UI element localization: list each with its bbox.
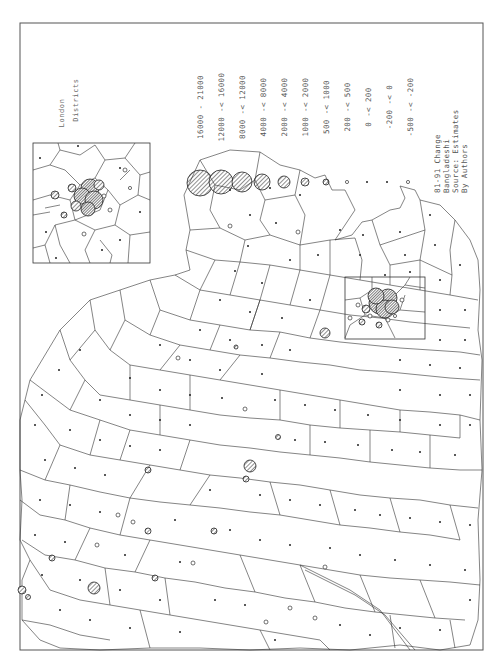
legend-label: -500 -< -200 bbox=[406, 77, 415, 136]
district-map bbox=[18, 150, 482, 650]
legend-title: 81-91 Change bbox=[433, 134, 442, 193]
legend-label: 8000 -< 12000 bbox=[238, 75, 247, 139]
legend-label: 1000 -< 2000 bbox=[301, 77, 310, 136]
legend-label: 12000 -< 16000 bbox=[217, 73, 226, 142]
legend-label: 4000 -< 8000 bbox=[259, 77, 268, 136]
district-symbols bbox=[18, 224, 327, 624]
district-boundaries bbox=[20, 152, 482, 650]
legend-label: 16000 - 21000 bbox=[196, 75, 205, 139]
inset-title-line1: London bbox=[58, 99, 66, 128]
legend-symbol-4000 bbox=[254, 174, 270, 190]
legend: 16000 - 21000 12000 -< 16000 8000 -< 120… bbox=[187, 73, 469, 196]
legend-label: 2000 -< 4000 bbox=[280, 77, 289, 136]
legend-symbol-neg500 bbox=[406, 180, 409, 183]
legend-symbol-neg200 bbox=[386, 181, 388, 183]
legend-labels: 16000 - 21000 12000 -< 16000 8000 -< 120… bbox=[196, 73, 415, 142]
legend-label: 200 -< 500 bbox=[343, 82, 352, 131]
legend-credit: By Authors bbox=[460, 144, 469, 193]
legend-symbol-1000 bbox=[301, 178, 309, 186]
legend-subtitle: Bangladeshi bbox=[442, 139, 451, 193]
legend-symbols bbox=[187, 170, 410, 196]
district-centroids bbox=[34, 187, 471, 641]
legend-symbol-0 bbox=[366, 181, 368, 183]
inset-title-line2: Districts bbox=[72, 78, 80, 121]
legend-source: Source: Estimates bbox=[451, 109, 460, 193]
legend-title-block: 81-91 Change Bangladeshi Source: Estimat… bbox=[433, 109, 469, 193]
legend-label: 500 -< 1000 bbox=[322, 80, 331, 134]
legend-symbol-200 bbox=[345, 180, 348, 183]
legend-label: 0 -< 200 bbox=[364, 87, 373, 126]
coastline bbox=[20, 150, 482, 650]
legend-label: -200 -< 0 bbox=[385, 85, 394, 129]
legend-symbol-2000 bbox=[278, 176, 290, 188]
london-inset: London Districts bbox=[33, 78, 150, 263]
map-canvas: 16000 - 21000 12000 -< 16000 8000 -< 120… bbox=[0, 0, 502, 665]
